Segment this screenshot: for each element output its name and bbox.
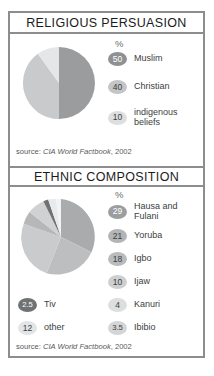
legend-label: Kanuri (134, 300, 160, 310)
legend-badge: 29 (108, 205, 127, 219)
pie-slice-muslim (59, 47, 95, 119)
panel-title-text: RELIGIOUS PERSUASION (26, 16, 187, 30)
legend-item-other: 12 other (18, 321, 65, 335)
legend-label: Hausa and Fulani (134, 202, 178, 221)
legend-item-ibibio: 3.5 Ibibio (108, 321, 156, 335)
source-prefix: source: (16, 342, 43, 351)
legend-badge: 40 (108, 80, 127, 94)
source-religious-persuasion: source: CIA World Factbook, 2002 (16, 147, 132, 156)
legend-item-kanuri: 4 Kanuri (108, 298, 160, 312)
legend-item-igbo: 18 Igbo (108, 252, 152, 266)
legend-label: Ijaw (134, 277, 150, 287)
legend-badge: 10 (108, 111, 127, 125)
panel-body-religious-persuasion: % 50 Muslim 40 Christian 10 indigenous b… (10, 34, 203, 166)
source-prefix: source: (16, 147, 43, 156)
panel-title-ethnic-composition: ETHNIC COMPOSITION (10, 166, 203, 187)
legend-label: Muslim (134, 54, 163, 64)
legend-badge: 21 (108, 229, 127, 243)
legend-badge: 3.5 (108, 321, 127, 335)
legend-item-muslim: 50 Muslim (108, 52, 163, 66)
panel-title-text: ETHNIC COMPOSITION (34, 170, 179, 184)
legend-item-ijaw: 10 Ijaw (108, 275, 150, 289)
legend-badge: 10 (108, 275, 127, 289)
legend-label: Yoruba (134, 231, 162, 241)
legend-badge: 2.5 (18, 298, 37, 312)
pie-svg (20, 44, 98, 122)
pie-chart-religious-persuasion (20, 44, 98, 122)
legend-religious-persuasion: % 50 Muslim 40 Christian 10 indigenous b… (106, 34, 206, 159)
legend-badge: 50 (108, 52, 127, 66)
legend-item-christian: 40 Christian (108, 80, 170, 94)
legend-ethnic-composition-right: % 29 Hausa and Fulani 21 Yoruba 18 Igbo … (106, 187, 206, 347)
legend-label: Christian (134, 82, 170, 92)
percent-header: % (115, 189, 123, 200)
source-year: , 2002 (111, 342, 132, 351)
legend-label: Tiv (44, 300, 56, 310)
legend-item-yoruba: 21 Yoruba (108, 229, 162, 243)
infographic-root: RELIGIOUS PERSUASION % 50 Musl (0, 0, 214, 376)
legend-label: Ibibio (134, 323, 156, 333)
outer-frame: RELIGIOUS PERSUASION % 50 Musl (8, 11, 205, 358)
percent-header: % (115, 38, 123, 49)
source-publication: CIA World Factbook (43, 147, 111, 156)
legend-badge: 4 (108, 298, 127, 312)
legend-badge: 12 (18, 321, 37, 335)
source-ethnic-composition: source: CIA World Factbook, 2002 (16, 342, 132, 351)
legend-label: other (44, 323, 65, 333)
legend-item-indigenous-beliefs: 10 indigenous beliefs (108, 108, 178, 127)
source-publication: CIA World Factbook (43, 342, 111, 351)
legend-item-tiv: 2.5 Tiv (18, 298, 56, 312)
legend-ethnic-composition-left: 2.5 Tiv 12 other (16, 187, 106, 347)
panel-body-ethnic-composition: % 29 Hausa and Fulani 21 Yoruba 18 Igbo … (10, 187, 203, 356)
legend-item-hausa-and-fulani: 29 Hausa and Fulani (108, 202, 178, 221)
source-year: , 2002 (111, 147, 132, 156)
legend-label: Igbo (134, 254, 152, 264)
panel-title-religious-persuasion: RELIGIOUS PERSUASION (10, 13, 203, 34)
legend-badge: 18 (108, 252, 127, 266)
legend-label: indigenous beliefs (134, 108, 178, 127)
